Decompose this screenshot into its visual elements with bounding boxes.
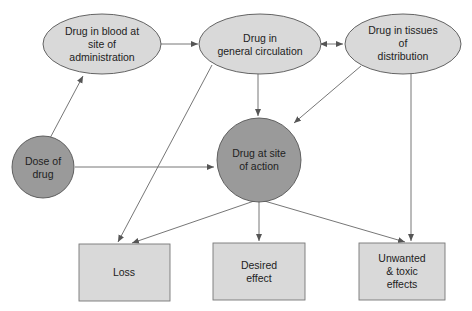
node-site-of-action: Drug at siteof action (217, 118, 301, 202)
node-tissues: Drug in tissuesofdistribution (345, 14, 461, 74)
node-unwanted-effects: Unwanted& toxiceffects (359, 243, 445, 300)
node-desired-effect: Desiredeffect (213, 243, 305, 300)
edge-circulation-to-loss (118, 65, 212, 242)
svg-text:Drug at siteof action: Drug at siteof action (232, 147, 286, 172)
pharmacokinetics-diagram: Drug in blood atsite ofadministration Dr… (0, 0, 472, 311)
edge-tissues-to-site-of-action (294, 66, 361, 123)
node-dose: Dose ofdrug (12, 136, 74, 198)
edge-site-to-unwanted-effects (261, 200, 405, 242)
svg-text:Loss: Loss (113, 266, 135, 278)
edge-dose-to-blood-admin (49, 76, 83, 140)
node-general-circulation: Drug ingeneral circulation (199, 14, 321, 74)
node-blood-admin: Drug in blood atsite ofadministration (43, 14, 161, 74)
node-loss: Loss (79, 244, 170, 301)
edge-site-to-loss (132, 200, 257, 243)
